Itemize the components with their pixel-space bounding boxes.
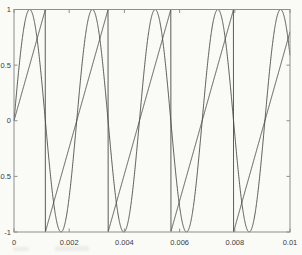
y-tick-label: -0.5 bbox=[0, 172, 11, 181]
curves-layer bbox=[14, 10, 290, 233]
x-tick-label: 0.004 bbox=[115, 238, 134, 247]
y-axis-labels: -1 -0.5 0 0.5 1 bbox=[0, 5, 11, 237]
sawtooth-wave-curve bbox=[14, 10, 290, 232]
sine-wave-curve bbox=[14, 10, 290, 233]
y-tick-label: 0.5 bbox=[1, 61, 11, 70]
scan-artifact bbox=[55, 246, 89, 251]
scanned-figure-page: 0 0.002 0.004 0.006 0.008 0.01 -1 -0.5 0… bbox=[0, 0, 302, 255]
x-tick-label: 0 bbox=[12, 238, 16, 247]
y-tick-label: 0 bbox=[7, 116, 11, 125]
scan-artifact bbox=[13, 247, 29, 251]
y-tick-label: 1 bbox=[7, 5, 11, 14]
y-tick-label: -1 bbox=[4, 228, 11, 237]
x-tick-label: 0.01 bbox=[283, 238, 298, 247]
x-tick-label: 0.006 bbox=[170, 238, 189, 247]
x-tick-label: 0.008 bbox=[225, 238, 244, 247]
plot-border bbox=[14, 10, 290, 233]
waveform-chart: 0 0.002 0.004 0.006 0.008 0.01 -1 -0.5 0… bbox=[0, 0, 302, 255]
tick-marks bbox=[14, 10, 290, 233]
